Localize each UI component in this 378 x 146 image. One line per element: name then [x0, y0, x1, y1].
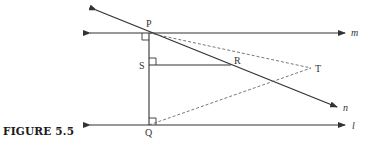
label-q: Q [145, 127, 153, 138]
label-s: S [139, 60, 145, 71]
right-angle-mark-s [149, 58, 156, 65]
dashed-segment-pt [149, 33, 311, 68]
label-n: n [343, 102, 348, 113]
label-m: m [351, 27, 358, 38]
figure-caption: FIGURE 5.5 [3, 125, 74, 137]
label-p: P [146, 18, 152, 29]
label-l: l [352, 120, 355, 131]
label-t: T [315, 63, 321, 74]
label-r: R [234, 55, 241, 66]
right-angle-mark-p [142, 33, 149, 40]
line-n [96, 10, 337, 107]
right-angle-mark-q [149, 118, 156, 125]
dashed-segment-qt [149, 68, 311, 125]
